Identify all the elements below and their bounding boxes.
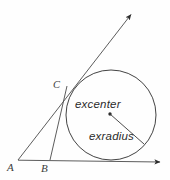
vertex-label-c: C (53, 80, 60, 91)
segment-BC (50, 86, 67, 160)
geometry-figure: A B C excenter exradius (0, 0, 170, 180)
vertex-label-a: A (7, 162, 14, 173)
exradius-label: exradius (89, 131, 134, 143)
figure-canvas (0, 0, 170, 180)
ray-AB (18, 160, 160, 162)
excenter-label: excenter (75, 99, 121, 111)
vertex-label-b: B (41, 163, 48, 174)
